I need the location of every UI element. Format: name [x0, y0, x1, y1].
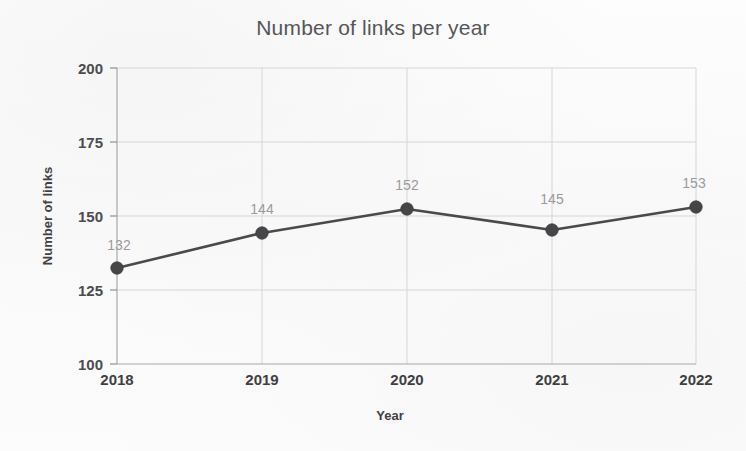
data-point-2021[interactable] [546, 224, 558, 236]
line-chart: 200 175 150 125 100 2018 2019 2020 2021 … [0, 0, 746, 451]
data-point-2022[interactable] [690, 201, 702, 213]
data-point-2020[interactable] [401, 203, 413, 215]
chart-page: Number of links per year [0, 0, 746, 451]
x-tick-label-2021: 2021 [535, 371, 568, 388]
data-label-2020: 152 [395, 177, 419, 193]
y-tick-label-175: 175 [78, 134, 103, 151]
data-point-2019[interactable] [256, 227, 268, 239]
y-axis-tick-marks [110, 68, 117, 364]
data-label-2019: 144 [250, 201, 274, 217]
data-point-2018[interactable] [111, 262, 123, 274]
y-tick-label-125: 125 [78, 282, 103, 299]
data-label-2021: 145 [540, 191, 564, 207]
y-tick-label-100: 100 [78, 356, 103, 373]
y-tick-label-150: 150 [78, 208, 103, 225]
y-axis-title: Number of links [40, 167, 55, 265]
x-tick-label-2022: 2022 [679, 371, 712, 388]
x-tick-label-2019: 2019 [245, 371, 278, 388]
data-label-2022: 153 [682, 175, 706, 191]
y-tick-label-200: 200 [78, 60, 103, 77]
x-tick-label-2020: 2020 [390, 371, 423, 388]
x-axis-title: Year [376, 408, 403, 423]
x-tick-label-2018: 2018 [100, 371, 133, 388]
data-label-2018: 132 [107, 237, 131, 253]
y-axis-tick-labels: 200 175 150 125 100 [78, 60, 103, 373]
x-axis-tick-labels: 2018 2019 2020 2021 2022 [100, 371, 712, 388]
